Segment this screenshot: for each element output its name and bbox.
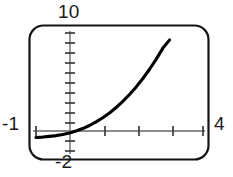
graphing-calculator-figure: 10 -1 4 -2: [0, 0, 233, 177]
window-label-xmax: 4: [214, 114, 225, 133]
window-label-ymax: 10: [58, 2, 80, 21]
window-label-xmin: -1: [2, 114, 19, 133]
viewport-frame: [30, 26, 209, 160]
window-label-ymin: -2: [55, 152, 72, 171]
plot-canvas: [0, 0, 233, 177]
